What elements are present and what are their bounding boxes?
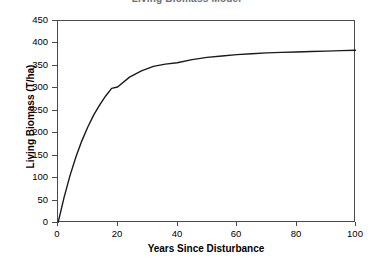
y-tick-label-0: 0 [8,217,48,227]
biomass-curve-svg [58,21,356,223]
x-tick-label-40: 40 [157,228,197,239]
x-tick-label-0: 0 [37,228,77,239]
x-axis-title: Years Since Disturbance [57,243,355,254]
x-tick-label-100: 100 [335,228,373,239]
plot-area [57,20,355,222]
series-line-living-biomass [58,50,356,223]
x-tick-label-60: 60 [216,228,256,239]
chart-container: Living Biomass Model 450 400 350 300 250… [0,0,373,265]
x-tick-label-80: 80 [276,228,316,239]
x-tick-label-20: 20 [97,228,137,239]
chart-title: Living Biomass Model [0,0,373,7]
y-tick-label-450: 450 [8,15,48,25]
y-axis-title: Living Biomass (T/ha) [25,27,36,207]
